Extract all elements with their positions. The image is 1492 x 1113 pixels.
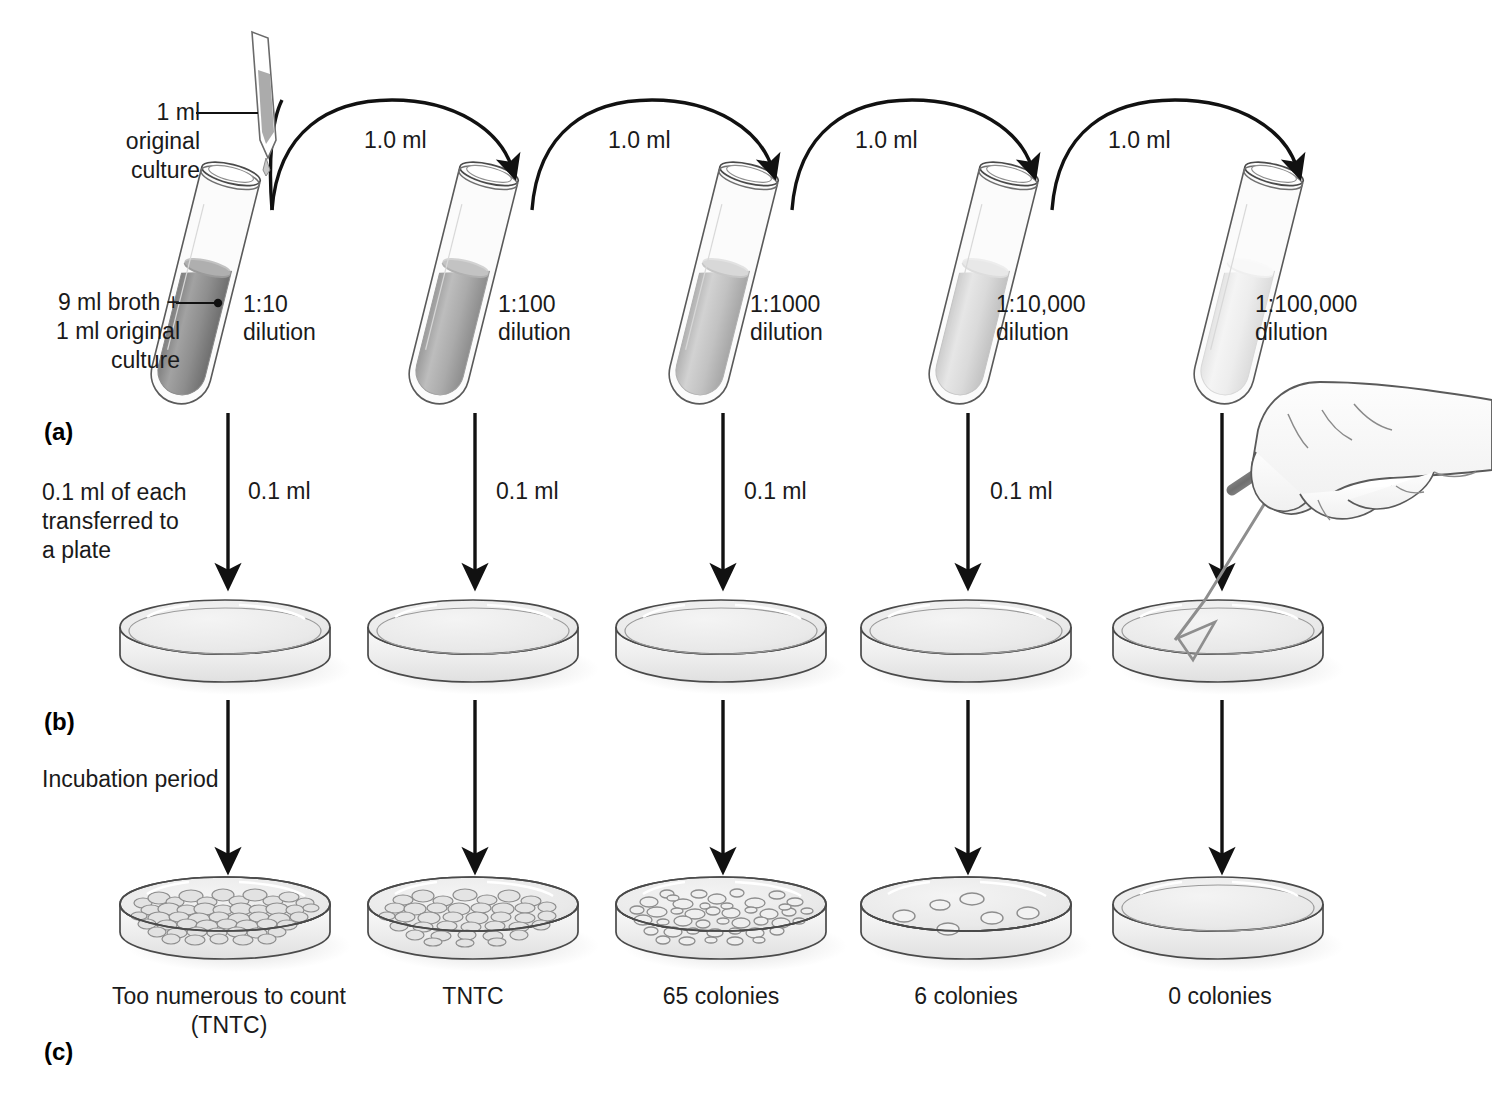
test-tube-3 bbox=[663, 157, 781, 410]
panel-label-a: (a) bbox=[44, 418, 73, 446]
annotation-broth: 9 ml broth + 1 ml original culture bbox=[40, 288, 180, 375]
panel-label-c: (c) bbox=[44, 1038, 73, 1066]
panel-label-b: (b) bbox=[44, 708, 75, 736]
plate-volume-label-4: 0.1 ml bbox=[990, 477, 1053, 506]
test-tube-5 bbox=[1188, 157, 1306, 410]
result-label-5: 0 colonies bbox=[1112, 982, 1328, 1011]
transfer-label-3: 1.0 ml bbox=[855, 126, 918, 155]
petri-dish-empty-2 bbox=[368, 600, 599, 695]
result-label-1: Too numerous to count (TNTC) bbox=[98, 982, 360, 1040]
dilution-label-3: 1:1000 bbox=[750, 290, 820, 319]
dilution-suffix-4: dilution bbox=[996, 318, 1069, 347]
petri-dish-empty-3 bbox=[616, 600, 847, 695]
dilution-suffix-1: dilution bbox=[243, 318, 316, 347]
dilution-label-5: 1:100,000 bbox=[1255, 290, 1357, 319]
plate-volume-label-3: 0.1 ml bbox=[744, 477, 807, 506]
result-label-3: 65 colonies bbox=[613, 982, 829, 1011]
result-label-2: TNTC bbox=[365, 982, 581, 1011]
dilution-suffix-2: dilution bbox=[498, 318, 571, 347]
test-tube-4 bbox=[923, 157, 1041, 410]
petri-dish-colonies-3 bbox=[616, 877, 847, 972]
transfer-label-2: 1.0 ml bbox=[608, 126, 671, 155]
annotation-transfer: 0.1 ml of each transferred to a plate bbox=[42, 478, 232, 565]
petri-dish-colonies-5 bbox=[1113, 877, 1344, 972]
annotation-incubation: Incubation period bbox=[42, 765, 218, 794]
dilution-label-4: 1:10,000 bbox=[996, 290, 1086, 319]
petri-dish-empty-4 bbox=[861, 600, 1092, 695]
annotation-original-culture: 1 ml original culture bbox=[90, 98, 200, 185]
dilution-label-2: 1:100 bbox=[498, 290, 556, 319]
result-label-4: 6 colonies bbox=[858, 982, 1074, 1011]
dilution-label-1: 1:10 bbox=[243, 290, 288, 319]
petri-dish-colonies-2 bbox=[368, 877, 599, 972]
serial-dilution-figure: 1 ml original culture 9 ml broth + 1 ml … bbox=[0, 0, 1492, 1113]
transfer-label-1: 1.0 ml bbox=[364, 126, 427, 155]
petri-dish-colonies-1 bbox=[120, 877, 351, 972]
dilution-suffix-5: dilution bbox=[1255, 318, 1328, 347]
dilution-suffix-3: dilution bbox=[750, 318, 823, 347]
plate-volume-label-1: 0.1 ml bbox=[248, 477, 311, 506]
petri-dish-colonies-4 bbox=[861, 877, 1092, 972]
plate-volume-label-2: 0.1 ml bbox=[496, 477, 559, 506]
petri-dish-empty-1 bbox=[120, 600, 351, 695]
petri-dish-empty-5 bbox=[1113, 600, 1344, 695]
transfer-label-4: 1.0 ml bbox=[1108, 126, 1171, 155]
test-tube-2 bbox=[403, 157, 521, 410]
